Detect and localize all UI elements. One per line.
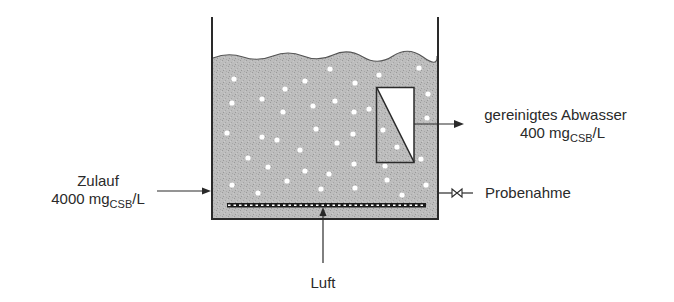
- outlet-concentration: 400 mgCSB/L: [468, 124, 643, 142]
- inlet-arrow: [157, 188, 211, 195]
- sampling-label: Probenahme: [485, 184, 571, 202]
- outlet-title: gereinigtes Abwasser: [468, 106, 643, 124]
- outlet-label: gereinigtes Abwasser 400 mgCSB/L: [468, 106, 643, 142]
- air-arrow: [320, 207, 327, 263]
- air-label: Luft: [293, 274, 353, 292]
- valve-icon: [452, 189, 462, 197]
- inlet-title: Zulauf: [38, 172, 158, 190]
- aeration-diffuser: [227, 203, 426, 208]
- sampling-line: [438, 189, 473, 197]
- inlet-concentration: 4000 mgCSB/L: [38, 190, 158, 208]
- process-diagram: [0, 0, 674, 302]
- inlet-label: Zulauf 4000 mgCSB/L: [38, 172, 158, 208]
